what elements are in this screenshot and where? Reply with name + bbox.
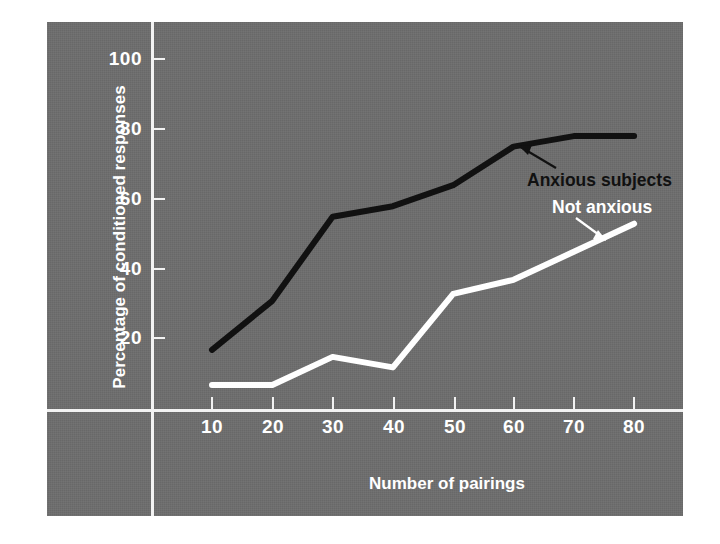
- chart-series-layer: [0, 0, 720, 544]
- chart-figure: Percentage of conditioned responses Numb…: [0, 0, 720, 544]
- series-line-not-anxious: [212, 224, 634, 385]
- annotation-anxious-subjects: Anxious subjects: [527, 170, 672, 191]
- series-line-anxious-subjects: [212, 136, 634, 350]
- annotation-not-anxious: Not anxious: [552, 197, 652, 218]
